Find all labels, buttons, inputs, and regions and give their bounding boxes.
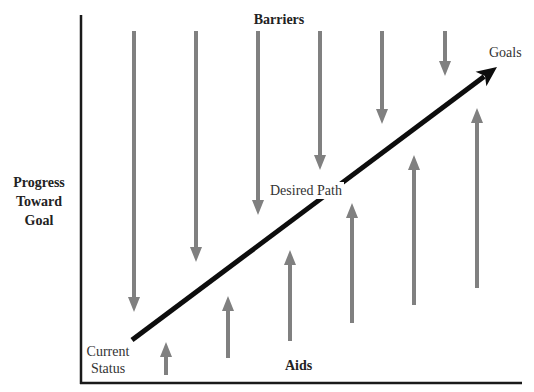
y-axis-label-line1: Progress: [4, 173, 74, 192]
y-axis-label-line2: Toward: [4, 192, 74, 211]
desired-path-arrow: [132, 77, 484, 340]
arrow-up-icon: [222, 296, 234, 311]
barriers-label: Barriers: [252, 11, 306, 28]
arrow-up-icon: [346, 203, 358, 218]
y-axis-label-line3: Goal: [4, 211, 74, 230]
current-status-line1: Current: [82, 343, 134, 360]
arrow-down-icon: [190, 247, 202, 262]
arrow-down-icon: [128, 297, 140, 312]
arrow-up-icon: [160, 342, 172, 357]
current-status-label: Current Status: [82, 343, 134, 377]
aids-label: Aids: [285, 357, 312, 374]
desired-path-label: Desired Path: [268, 182, 344, 199]
arrow-up-icon: [408, 155, 420, 170]
force-field-diagram: [0, 0, 534, 392]
arrow-down-icon: [376, 109, 388, 124]
y-axis-label: Progress Toward Goal: [4, 173, 74, 230]
arrow-up-icon: [471, 108, 483, 123]
goals-label: Goals: [489, 44, 522, 61]
arrow-down-icon: [252, 200, 264, 215]
current-status-line2: Status: [82, 360, 134, 377]
arrow-up-icon: [284, 250, 296, 265]
arrow-down-icon: [314, 155, 326, 170]
arrow-down-icon: [439, 61, 451, 76]
